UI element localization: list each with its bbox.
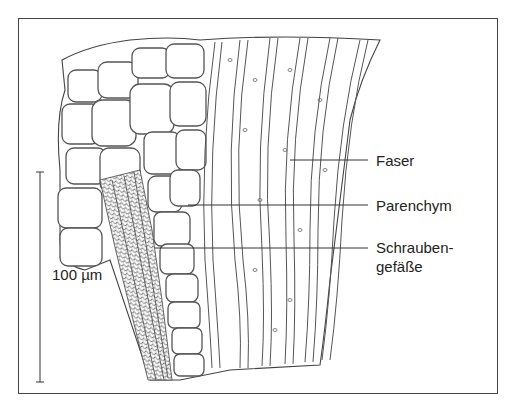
label-faser: Faser <box>376 151 414 170</box>
label-schraubengefaesse-line2: gefäße <box>376 257 423 276</box>
scale-bar <box>36 172 44 382</box>
label-parenchym: Parenchym <box>376 196 452 215</box>
label-schraubengefaesse-line1: Schrauben- <box>376 238 454 257</box>
fiber-pits <box>228 59 327 332</box>
scale-bar-label: 100 µm <box>52 266 102 283</box>
fibers <box>204 38 368 368</box>
